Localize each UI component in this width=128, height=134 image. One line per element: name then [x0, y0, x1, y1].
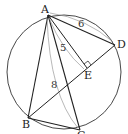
- label-E: E: [84, 69, 92, 82]
- segment-AC: [48, 15, 80, 130]
- label-B: B: [22, 118, 30, 131]
- segment-AB: [28, 15, 48, 118]
- label-D: D: [117, 38, 126, 51]
- measure-label-AE: 5: [60, 42, 66, 53]
- right-angle-mark: [84, 61, 91, 65]
- label-C: C: [77, 129, 85, 134]
- label-A: A: [40, 3, 50, 16]
- geometry-diagram: A D E B C 6 5 8: [0, 0, 128, 134]
- measure-label-AC: 8: [51, 79, 57, 90]
- measure-label-AD: 6: [78, 18, 84, 29]
